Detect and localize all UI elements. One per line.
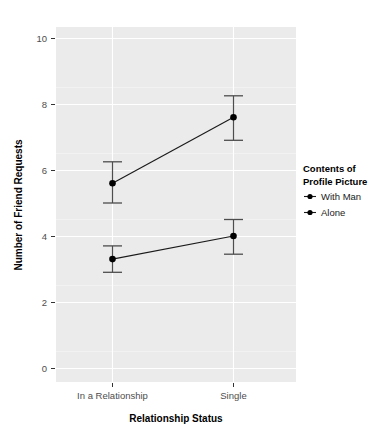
legend-title-line-2: Profile Picture [303, 176, 367, 187]
y-tick-label-6: 6 [42, 165, 47, 176]
datapoint-with-man-in-a-relationship [109, 180, 116, 187]
x-axis-tick-labels: In a Relationship Single [77, 390, 247, 401]
chart-canvas: 0 2 4 6 8 10 Number of Friend Requests I… [0, 0, 381, 442]
y-tick-label-0: 0 [42, 363, 47, 374]
datapoint-alone-in-a-relationship [109, 256, 116, 263]
legend-label-with-man: With Man [321, 191, 361, 202]
y-axis-title: Number of Friend Requests [13, 139, 24, 271]
y-axis-tick-marks [51, 39, 55, 369]
datapoint-alone-single [230, 233, 237, 240]
x-axis-title: Relationship Status [129, 413, 223, 424]
plot-panel-background [56, 27, 296, 382]
interaction-plot-figure: 0 2 4 6 8 10 Number of Friend Requests I… [0, 0, 381, 442]
legend-item-alone[interactable]: Alone [304, 207, 345, 218]
legend-item-with-man[interactable]: With Man [304, 191, 361, 202]
y-tick-label-8: 8 [42, 99, 47, 110]
x-tick-label-in-a-relationship: In a Relationship [77, 390, 148, 401]
legend-marker-dot-with-man [307, 194, 312, 199]
y-tick-label-4: 4 [42, 231, 47, 242]
legend: Contents of Profile Picture With Man Alo… [303, 163, 367, 218]
x-tick-label-single: Single [220, 390, 246, 401]
y-tick-label-10: 10 [36, 33, 47, 44]
y-axis-tick-labels: 0 2 4 6 8 10 [36, 33, 47, 374]
datapoint-with-man-single [230, 114, 237, 121]
legend-label-alone: Alone [321, 207, 345, 218]
y-tick-label-2: 2 [42, 297, 47, 308]
legend-title-line-1: Contents of [303, 163, 357, 174]
legend-marker-dot-alone [307, 210, 312, 215]
x-axis-tick-marks [113, 383, 234, 387]
